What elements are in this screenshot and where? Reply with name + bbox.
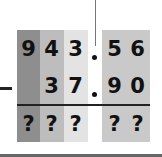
- subtrahend-digit-tenths: 9: [103, 74, 126, 98]
- decimal-point-marker-line: [95, 0, 96, 46]
- subtrahend-digit-hundredths: 0: [126, 74, 149, 98]
- result-digit-tenths: ?: [103, 112, 126, 136]
- result-digit-ones: ?: [64, 112, 87, 136]
- subtrahend-digit-ones: 7: [64, 74, 87, 98]
- subtrahend-digit-tens: 3: [40, 74, 63, 98]
- minuend-digit-hundredths: 6: [126, 37, 149, 61]
- result-digit-tens: ?: [40, 112, 63, 136]
- result-underline: [17, 104, 150, 106]
- minus-sign: [0, 87, 12, 90]
- minuend-decimal-point: [92, 55, 97, 60]
- minuend-digit-ones: 3: [64, 37, 87, 61]
- minuend-digit-tens: 4: [40, 37, 63, 61]
- minuend-digit-tenths: 5: [103, 37, 126, 61]
- result-digit-hundreds: ?: [17, 112, 40, 136]
- bottom-bar: [0, 154, 162, 157]
- minuend-digit-hundreds: 9: [17, 37, 40, 61]
- result-digit-hundredths: ?: [126, 112, 149, 136]
- subtrahend-decimal-point: [92, 92, 97, 97]
